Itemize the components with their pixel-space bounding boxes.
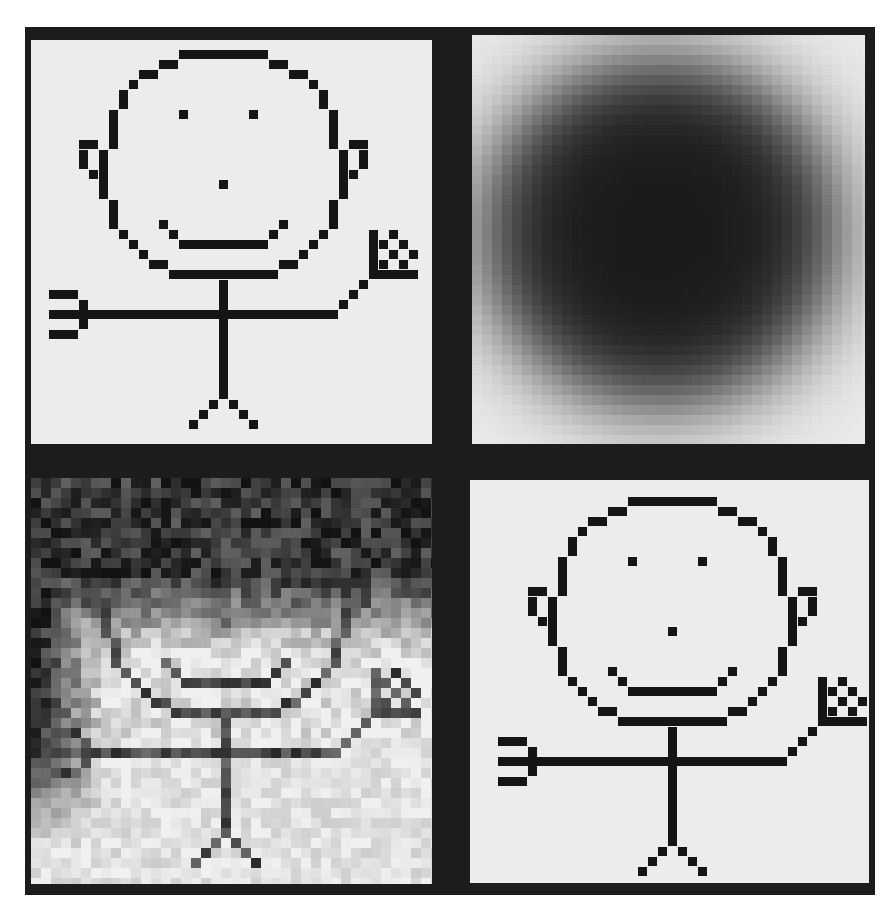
- blur-pixel: [742, 345, 752, 355]
- noise-pixel: [31, 498, 41, 508]
- noise-pixel: [171, 558, 181, 568]
- blur-pixel: [792, 385, 802, 395]
- noise-pixel: [241, 658, 251, 668]
- blur-pixel: [862, 385, 865, 395]
- blur-pixel: [742, 275, 752, 285]
- noise-pixel: [211, 498, 221, 508]
- blur-pixel: [852, 415, 862, 425]
- noise-pixel: [31, 828, 41, 838]
- blur-pixel: [512, 235, 522, 245]
- noise-pixel: [381, 808, 391, 818]
- blur-pixel: [472, 355, 482, 365]
- noise-pixel: [171, 858, 181, 868]
- noise-pixel: [381, 578, 391, 588]
- noise-pixel: [111, 618, 121, 628]
- noise-pixel: [371, 598, 381, 608]
- blur-pixel: [722, 365, 732, 375]
- noise-pixel: [401, 788, 411, 798]
- blur-pixel: [802, 285, 812, 295]
- noise-pixel: [391, 688, 401, 698]
- blur-pixel: [762, 215, 772, 225]
- noise-pixel: [181, 518, 191, 528]
- blur-pixel: [792, 285, 802, 295]
- noise-pixel: [421, 628, 431, 638]
- noise-pixel: [31, 478, 41, 488]
- noise-pixel: [181, 658, 191, 668]
- noise-pixel: [341, 528, 351, 538]
- blur-pixel: [842, 105, 852, 115]
- noise-pixel: [61, 828, 71, 838]
- blur-pixel: [752, 195, 762, 205]
- noise-pixel: [331, 558, 341, 568]
- noise-pixel: [381, 558, 391, 568]
- noise-pixel: [161, 848, 171, 858]
- noise-pixel: [341, 688, 351, 698]
- noise-pixel: [241, 688, 251, 698]
- noise-pixel: [341, 508, 351, 518]
- blur-pixel: [822, 45, 832, 55]
- noise-pixel: [211, 688, 221, 698]
- noise-pixel: [421, 528, 431, 538]
- noise-pixel: [61, 768, 71, 778]
- blur-pixel: [842, 265, 852, 275]
- noise-pixel: [301, 678, 311, 688]
- blur-pixel: [482, 365, 492, 375]
- noise-pixel: [211, 768, 221, 778]
- noise-pixel: [281, 688, 291, 698]
- blur-pixel: [672, 185, 682, 195]
- blur-pixel: [772, 75, 782, 85]
- noise-pixel: [101, 808, 111, 818]
- noise-pixel: [101, 488, 111, 498]
- noise-pixel: [221, 768, 231, 778]
- blur-pixel: [742, 225, 752, 235]
- blur-pixel: [672, 155, 682, 165]
- blur-pixel: [562, 125, 572, 135]
- noise-pixel: [71, 778, 81, 788]
- blur-pixel: [472, 415, 482, 425]
- noise-pixel: [421, 518, 431, 528]
- blur-pixel: [542, 415, 552, 425]
- blur-pixel: [672, 265, 682, 275]
- noise-pixel: [431, 648, 432, 658]
- blur-pixel: [662, 415, 672, 425]
- noise-pixel: [241, 668, 251, 678]
- noise-pixel: [271, 508, 281, 518]
- blur-pixel: [522, 415, 532, 425]
- noise-pixel: [361, 828, 371, 838]
- noise-pixel: [121, 878, 131, 884]
- blur-pixel: [742, 195, 752, 205]
- blur-pixel: [472, 105, 482, 115]
- blur-pixel: [802, 395, 812, 405]
- noise-pixel: [101, 818, 111, 828]
- noise-pixel: [191, 558, 201, 568]
- blur-pixel: [732, 65, 742, 75]
- figure-pixel: [49, 310, 338, 319]
- blur-pixel: [622, 295, 632, 305]
- blur-pixel: [472, 435, 482, 444]
- blur-pixel: [492, 305, 502, 315]
- blur-pixel: [792, 185, 802, 195]
- noise-pixel: [251, 838, 261, 848]
- noise-pixel: [321, 808, 331, 818]
- blur-pixel: [642, 165, 652, 175]
- noise-pixel: [111, 688, 121, 698]
- noise-pixel: [191, 478, 201, 488]
- noise-pixel: [221, 678, 231, 688]
- noise-pixel: [171, 608, 181, 618]
- noise-pixel: [101, 738, 111, 748]
- blur-pixel: [552, 365, 562, 375]
- noise-pixel: [401, 718, 411, 728]
- blur-pixel: [752, 295, 762, 305]
- blur-pixel: [552, 155, 562, 165]
- noise-pixel: [261, 638, 271, 648]
- blur-pixel: [722, 155, 732, 165]
- blur-pixel: [572, 365, 582, 375]
- blur-pixel: [742, 295, 752, 305]
- blur-pixel: [552, 385, 562, 395]
- noise-pixel: [361, 478, 371, 488]
- blur-pixel: [612, 415, 622, 425]
- noise-pixel: [431, 778, 432, 788]
- noise-pixel: [171, 668, 181, 678]
- noise-pixel: [131, 668, 141, 678]
- blur-pixel: [802, 255, 812, 265]
